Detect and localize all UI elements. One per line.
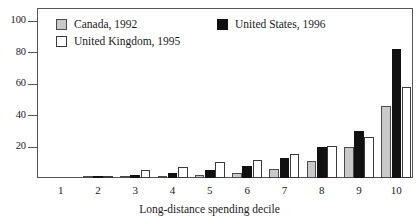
legend-swatch-united-kingdom-icon — [56, 36, 67, 47]
bar — [344, 147, 354, 178]
bar — [195, 175, 205, 178]
bar-group — [120, 8, 150, 178]
legend-swatch-united-states-icon — [217, 19, 228, 30]
y-axis-tick — [28, 84, 37, 85]
bar — [120, 176, 130, 178]
y-axis-label: 80 — [0, 47, 26, 58]
bar — [83, 176, 93, 178]
bar — [354, 131, 364, 178]
bar — [290, 154, 300, 178]
bar — [205, 170, 215, 178]
legend-item-united-states: United States, 1996 — [217, 18, 325, 30]
y-axis-tick — [28, 115, 37, 116]
x-axis-label: 5 — [198, 185, 222, 196]
bar — [364, 137, 374, 178]
bar — [253, 160, 263, 178]
x-axis-label: 1 — [49, 185, 73, 196]
legend-item-canada: Canada, 1992 — [56, 18, 137, 30]
bar — [178, 167, 188, 178]
bar-chart: 20406080100 12345678910 Long-distance sp… — [0, 0, 419, 223]
y-axis-label: 60 — [0, 78, 26, 89]
x-axis-label: 6 — [235, 185, 259, 196]
bar — [242, 166, 252, 178]
x-axis-label: 4 — [161, 185, 185, 196]
bar — [158, 176, 168, 178]
x-axis-label: 3 — [123, 185, 147, 196]
bar-group — [307, 8, 337, 178]
bar-group — [381, 8, 411, 178]
bar — [103, 176, 113, 178]
x-axis-label: 10 — [384, 185, 408, 196]
plot-frame-right — [412, 8, 413, 178]
bar — [307, 161, 317, 178]
bar — [168, 173, 178, 178]
bar — [141, 170, 151, 178]
x-axis-label: 9 — [347, 185, 371, 196]
bar — [317, 147, 327, 178]
bar-group — [158, 8, 188, 178]
bar — [215, 162, 225, 178]
legend-swatch-canada-icon — [56, 19, 67, 30]
legend-label-canada: Canada, 1992 — [74, 18, 137, 30]
bar — [130, 175, 140, 178]
x-axis-label: 7 — [272, 185, 296, 196]
bar-group — [83, 8, 113, 178]
bar — [327, 146, 337, 178]
y-axis-label: 100 — [0, 15, 26, 26]
bar-group — [269, 8, 299, 178]
bar — [392, 49, 402, 178]
y-axis-label: 40 — [0, 110, 26, 121]
y-axis-tick — [28, 21, 37, 22]
bar-group — [195, 8, 225, 178]
y-axis-tick — [28, 52, 37, 53]
bars-layer — [38, 8, 411, 178]
bar-group — [232, 8, 262, 178]
x-axis-label: 8 — [310, 185, 334, 196]
legend-label-united-states: United States, 1996 — [235, 18, 325, 30]
legend-label-united-kingdom: United Kingdom, 1995 — [74, 35, 180, 47]
legend-item-united-kingdom: United Kingdom, 1995 — [56, 35, 180, 47]
y-axis-label: 20 — [0, 141, 26, 152]
bar — [93, 176, 103, 178]
x-axis-title: Long-distance spending decile — [0, 203, 419, 215]
bar — [381, 106, 391, 178]
bar-group — [46, 8, 76, 178]
bar — [280, 158, 290, 178]
bar — [402, 87, 412, 178]
bar — [269, 169, 279, 178]
bar-group — [344, 8, 374, 178]
x-axis-label: 2 — [86, 185, 110, 196]
y-axis-tick — [28, 147, 37, 148]
bar — [232, 173, 242, 179]
